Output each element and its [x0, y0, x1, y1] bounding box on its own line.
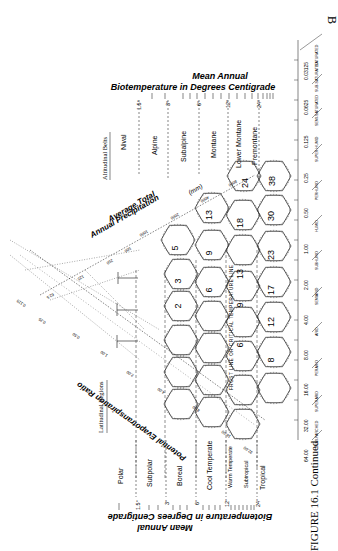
bottom-title: Biotemperature in Degrees Centigrade Mea…: [108, 512, 273, 533]
altitudinal-belts: Altitudinal Belts Nival Alpine Subalpine…: [101, 120, 258, 180]
bottom-temp-dividers: [136, 440, 257, 497]
region-subpolar: Subpolar: [146, 458, 154, 487]
temp-tick-3: 3°: [165, 101, 171, 106]
hex-values: 5 13 24 38 3 9 18 30 2 6 13 23 9 17 6 12…: [170, 176, 277, 363]
bottom-title-line1: Mean Annual: [137, 523, 193, 533]
svg-text:8.00: 8.00: [303, 350, 309, 360]
region-tropical: Tropical: [259, 465, 267, 490]
bottom-temp-ticks: 1.5° 3° 6° 12° 24°: [135, 499, 261, 510]
svg-text:6°: 6°: [194, 500, 200, 505]
svg-text:0.125: 0.125: [303, 135, 309, 148]
region-subtropical: Subtropical: [243, 460, 249, 488]
hex-value: 23: [266, 250, 276, 260]
region-warm-temperate: Warm Temperate: [227, 446, 233, 488]
region-cool-temperate: Cool Temperate: [206, 441, 214, 490]
pet-ticks: 0.125 0.25 0.50 1.00 2.00 4.00 8.00 16.0…: [15, 298, 254, 455]
temp-tick-6: 6°: [196, 101, 202, 106]
svg-text:1.5°: 1.5°: [135, 500, 141, 510]
svg-text:4000: 4000: [199, 195, 210, 204]
hex-value: 17: [266, 285, 276, 295]
svg-text:0.50: 0.50: [303, 208, 309, 218]
top-title-line1: Mean Annual: [192, 71, 248, 81]
belt-premontane: Premontane: [251, 127, 258, 165]
hex-value: 5: [170, 245, 180, 250]
hex-value: 8: [266, 357, 276, 362]
svg-text:12°: 12°: [224, 499, 230, 507]
humidity-axis: 64.00 32.00 16.00 8.00 4.00 2.00 1.00 0.…: [294, 34, 322, 462]
latitudinal-heading: Latitudinal Regions: [97, 381, 104, 433]
hex-value: 6: [204, 287, 214, 292]
svg-text:2.00: 2.00: [125, 369, 135, 378]
region-boreal: Boreal: [176, 465, 183, 486]
region-polar: Polar: [117, 467, 124, 484]
svg-text:32.00: 32.00: [303, 419, 309, 432]
svg-text:2.00: 2.00: [303, 280, 309, 290]
hex-value: 9: [235, 302, 245, 307]
hex-value: 18: [235, 218, 245, 228]
svg-text:125: 125: [76, 274, 85, 282]
svg-text:SEMI-SATURATED: SEMI-SATURATED: [315, 94, 319, 126]
svg-text:1.00: 1.00: [303, 244, 309, 254]
latitudinal-regions: Latitudinal Regions Polar Subpolar Borea…: [97, 380, 267, 490]
corner-label: B: [325, 16, 338, 24]
svg-text:32.00: 32.00: [242, 445, 254, 455]
frost-line-label: FROST LINE OR CRITICAL TEMPERATURE LINE: [229, 265, 234, 391]
top-title: Mean Annual Biotemperature in Degrees Ce…: [111, 71, 276, 92]
svg-text:0.0625: 0.0625: [303, 99, 309, 115]
figure-caption: FIGURE 16.1 Continued: [308, 440, 320, 551]
hex-value: 2: [173, 303, 183, 308]
humidity-provinces: SEMI-PARCHED SUPERARID PERARID ARID SEMI…: [315, 44, 319, 448]
svg-text:24°: 24°: [255, 499, 261, 507]
top-title-line2: Biotemperature in Degrees Centigrade: [111, 82, 276, 92]
hex-value: 3: [173, 278, 183, 283]
holdridge-life-zone-diagram: B Mean Annual Biotemperature in Degrees …: [0, 0, 338, 551]
svg-text:PERARID: PERARID: [315, 360, 319, 376]
svg-text:1000: 1000: [138, 229, 149, 238]
t-marks: [117, 272, 138, 348]
svg-text:2000: 2000: [169, 212, 180, 221]
altitudinal-heading: Altitudinal Belts: [101, 136, 108, 180]
svg-text:0.50: 0.50: [71, 331, 81, 340]
hex-value: 30: [266, 211, 276, 221]
svg-text:1.00: 1.00: [99, 349, 109, 358]
svg-text:0.03125: 0.03125: [303, 62, 309, 80]
svg-text:4.00: 4.00: [156, 386, 166, 395]
guide-lines: [10, 240, 160, 360]
belt-alpine: Alpine: [151, 135, 159, 155]
hex-value: 24: [240, 178, 250, 188]
hex-value: 9: [204, 250, 214, 255]
hex-value: 13: [204, 210, 214, 220]
svg-text:250: 250: [105, 258, 114, 266]
hex-value: 38: [267, 176, 277, 186]
svg-text:16.00: 16.00: [303, 383, 309, 396]
svg-text:0.25: 0.25: [303, 173, 309, 183]
temp-tick-24: 24°: [256, 100, 262, 108]
svg-text:3°: 3°: [164, 500, 170, 505]
svg-text:0.125: 0.125: [15, 298, 27, 308]
belt-nival: Nival: [120, 134, 127, 150]
temp-tick-12: 12°: [225, 100, 231, 108]
hex-value: 12: [266, 317, 276, 327]
precipitation-axis: Average Total Annual Precipitation (mm) …: [40, 175, 255, 301]
svg-text:62.5: 62.5: [45, 292, 55, 301]
belt-subalpine: Subalpine: [180, 131, 188, 162]
precip-unit: (mm): [187, 182, 204, 197]
belt-montane: Montane: [210, 131, 217, 158]
top-temp-scale: [152, 93, 273, 99]
temp-tick-1-5: 1.5°: [136, 100, 142, 110]
hex-value: 13: [235, 269, 245, 279]
hex-value: 6: [235, 342, 245, 347]
svg-text:SATURATED: SATURATED: [315, 44, 319, 66]
svg-text:SEMIARID: SEMIARID: [315, 287, 319, 305]
svg-text:500: 500: [123, 246, 132, 254]
svg-text:4.00: 4.00: [303, 315, 309, 325]
humidity-ticks: 64.00 32.00 16.00 8.00 4.00 2.00 1.00 0.…: [303, 62, 309, 462]
svg-text:0.25: 0.25: [37, 316, 47, 325]
bottom-title-line2: Biotemperature in Degrees Centigrade: [108, 512, 273, 522]
